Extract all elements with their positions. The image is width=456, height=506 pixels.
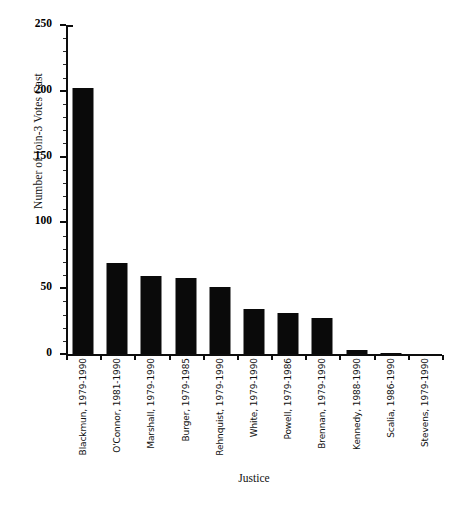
x-label-slot: O'Connor, 1981-1990: [100, 358, 134, 468]
bar-chart-figure: Number of Join-3 Votes Cast 050100150200…: [0, 0, 456, 506]
x-label-slot: Blackmun, 1979-1990: [66, 358, 100, 468]
x-axis-title: Justice: [66, 472, 442, 484]
x-axis-line: [66, 354, 442, 356]
bar-series: [66, 25, 442, 354]
bar: [278, 313, 299, 354]
x-label-slot: Kennedy, 1988-1990: [339, 358, 373, 468]
x-label-slot: White, 1979-1990: [237, 358, 271, 468]
x-axis-label: Kennedy, 1988-1990: [352, 358, 362, 450]
y-tick-label-50: 50: [41, 281, 53, 293]
bar-group: [271, 25, 305, 354]
y-tick-label-200: 200: [35, 84, 52, 96]
bar: [209, 287, 230, 354]
bar-group: [374, 25, 408, 354]
x-axis-label: Brennan, 1979-1990: [317, 358, 327, 449]
x-label-slot: Burger, 1979-1985: [169, 358, 203, 468]
bar-group: [66, 25, 100, 354]
bar: [346, 350, 367, 354]
x-label-slot: Scalia, 1986-1990: [374, 358, 408, 468]
bar: [380, 353, 401, 355]
bar-group: [305, 25, 339, 354]
bar-group: [100, 25, 134, 354]
bar: [175, 278, 196, 354]
x-label-slot: Marshall, 1979-1990: [134, 358, 168, 468]
x-tick: [442, 355, 444, 360]
x-axis-label: Blackmun, 1979-1990: [78, 358, 88, 455]
x-axis-label: Marshall, 1979-1990: [146, 358, 156, 449]
y-tick-label-0: 0: [46, 347, 52, 359]
x-label-slot: Stevens, 1979-1990: [408, 358, 442, 468]
x-axis-label: Rehnquist, 1979-1990: [215, 358, 225, 456]
y-tick-label-250: 250: [35, 18, 52, 30]
x-label-slot: Powell, 1979-1986: [271, 358, 305, 468]
bar-group: [203, 25, 237, 354]
bar: [312, 318, 333, 354]
bar: [243, 309, 264, 354]
x-axis-label: Powell, 1979-1986: [283, 358, 293, 440]
x-label-slot: Rehnquist, 1979-1990: [203, 358, 237, 468]
y-tick-label-150: 150: [35, 150, 52, 162]
x-axis-category-labels: Blackmun, 1979-1990O'Connor, 1981-1990Ma…: [66, 358, 442, 468]
bar-group: [134, 25, 168, 354]
x-axis-label: O'Connor, 1981-1990: [112, 358, 122, 453]
bar: [107, 263, 128, 354]
bar-group: [237, 25, 271, 354]
bar-group: [339, 25, 373, 354]
y-tick-label-100: 100: [35, 216, 52, 228]
bar: [141, 276, 162, 354]
x-axis-label: Scalia, 1986-1990: [386, 358, 396, 438]
x-axis-label: Burger, 1979-1985: [181, 358, 191, 441]
bar-group: [408, 25, 442, 354]
bar-group: [169, 25, 203, 354]
plot-area: 050100150200250: [66, 25, 442, 354]
x-axis-label: Stevens, 1979-1990: [420, 358, 430, 447]
x-label-slot: Brennan, 1979-1990: [305, 358, 339, 468]
bar: [73, 88, 94, 354]
x-axis-label: White, 1979-1990: [249, 358, 259, 437]
